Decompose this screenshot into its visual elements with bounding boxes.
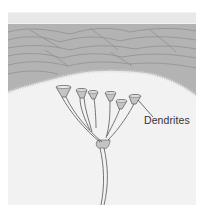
nerve-trunk-fill: [96, 140, 110, 149]
skin-dendrites-illustration: [0, 0, 202, 213]
dendrites-label: Dendrites: [144, 114, 190, 126]
